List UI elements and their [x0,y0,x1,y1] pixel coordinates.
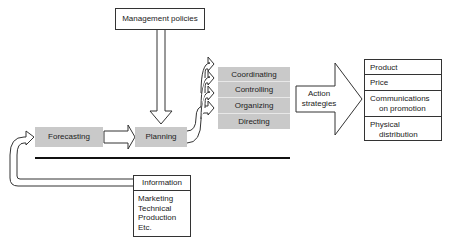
action-strategies-line: Action [300,89,338,99]
policies-down-arrow [150,30,172,124]
forecasting-box: Forecasting [35,127,103,147]
information-item: Marketing [138,194,190,204]
planning-branch-arrows [187,57,214,143]
function-directing: Directing [218,114,290,129]
information-items: Marketing Technical Production Etc. [134,191,190,232]
function-coordinating: Coordinating [218,67,290,82]
information-item: Technical [138,204,190,214]
marketing-mix-price: Price [365,75,441,91]
marketing-mix-label: Product [370,63,398,72]
action-strategies-line: strategies [300,99,338,109]
function-organizing: Organizing [218,98,290,114]
planning-label: Planning [145,132,176,142]
planning-box: Planning [135,127,187,147]
management-policies-label: Management policies [122,14,198,24]
forecasting-label: Forecasting [48,132,90,142]
information-title: Information [134,176,190,191]
information-item: Etc. [138,223,190,233]
marketing-mix-communications: Communications on promotion [365,91,441,117]
marketing-mix-product: Product [365,60,441,75]
marketing-mix-label: Communications [370,94,441,104]
function-label: Controlling [235,85,273,94]
function-controlling: Controlling [218,82,290,98]
function-label: Directing [238,117,270,126]
information-title-label: Information [142,178,182,187]
marketing-mix-label: Physical [370,120,441,130]
information-box: Information Marketing Technical Producti… [133,175,191,237]
marketing-mix-distribution: Physical distribution [365,117,441,142]
forecast-to-planning-arrow [104,125,135,149]
management-policies-box: Management policies [115,8,205,30]
management-functions-stack: Coordinating Controlling Organizing Dire… [218,67,290,129]
marketing-mix-label: on promotion [370,104,441,114]
information-item: Production [138,213,190,223]
function-label: Coordinating [231,70,276,79]
marketing-mix-label: distribution [370,130,441,140]
marketing-mix-box: Product Price Communications on promotio… [364,59,442,141]
action-strategies-label: Action strategies [300,89,338,109]
function-label: Organizing [235,101,274,110]
marketing-mix-label: Price [370,78,388,87]
